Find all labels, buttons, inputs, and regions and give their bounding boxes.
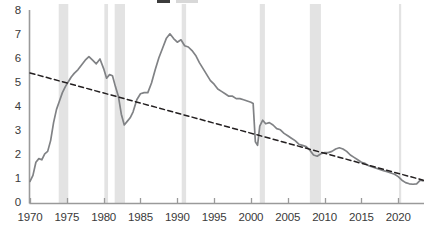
series-solid [30,34,423,184]
x-tick-label-2000: 2000 [231,211,271,223]
x-tick-label-1995: 1995 [194,211,234,223]
y-tick-label-8: 8 [5,4,21,16]
x-tick-label-2015: 2015 [341,211,381,223]
recession-bands-group [59,4,401,203]
y-tick-label-2: 2 [5,148,21,160]
recession-1973-1975 [59,4,69,203]
axes-group [30,10,425,204]
recession-2008-2009 [310,4,321,203]
x-axis-ticks-group [31,198,399,203]
y-tick-label-6: 6 [5,52,21,64]
y-tick-label-1: 1 [5,172,21,184]
x-tick-label-1980: 1980 [84,211,124,223]
x-tick-label-2005: 2005 [268,211,308,223]
line-chart: 876543210 197019751980198519901995200020… [0,0,426,231]
chart-plot-area [0,0,426,231]
data-series-group [30,34,423,184]
recession-1980 [104,4,108,203]
x-tick-label-1970: 1970 [10,211,50,223]
x-tick-label-1985: 1985 [120,211,160,223]
x-tick-label-1990: 1990 [157,211,197,223]
y-tick-label-5: 5 [5,76,21,88]
y-tick-label-7: 7 [5,28,21,40]
recession-2001 [260,4,265,203]
y-tick-label-3: 3 [5,124,21,136]
x-tick-label-2010: 2010 [305,211,345,223]
x-tick-label-2020: 2020 [378,211,418,223]
series-dashed-trend [30,73,423,180]
x-tick-label-1975: 1975 [47,211,87,223]
y-tick-label-4: 4 [5,100,21,112]
recession-1990-1991 [182,4,186,203]
y-tick-label-0: 0 [5,196,21,208]
